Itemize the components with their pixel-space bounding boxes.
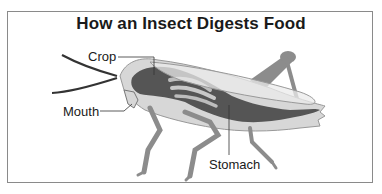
label-stomach: Stomach	[209, 157, 260, 172]
insect-illustration	[0, 0, 382, 194]
label-mouth: Mouth	[63, 104, 99, 119]
label-crop: Crop	[88, 49, 116, 64]
